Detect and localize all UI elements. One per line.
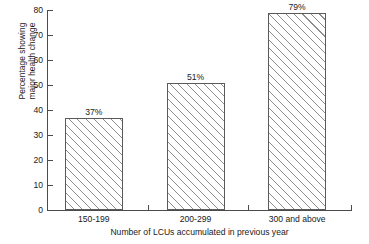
y-axis-tick-mark — [48, 35, 53, 36]
bar-value-label: 37% — [85, 107, 102, 117]
y-axis-tick-mark — [48, 160, 53, 161]
y-axis-tick-label: 70 — [33, 30, 43, 41]
y-axis-tick-label: 30 — [33, 130, 43, 141]
y-axis-tick-mark — [48, 135, 53, 136]
y-axis-tick-label: 60 — [33, 55, 43, 66]
y-axis-tick-mark — [48, 110, 53, 111]
y-axis-tick-mark — [48, 210, 53, 211]
y-axis-tick-label: 40 — [33, 105, 43, 116]
y-axis-tick-mark — [48, 60, 53, 61]
y-axis-tick-label: 80 — [33, 5, 43, 16]
y-axis-tick-label: 0 — [38, 205, 43, 216]
x-axis-tick-mark — [351, 205, 352, 210]
bar-chart: Percentage showing major health change 0… — [0, 0, 369, 244]
x-axis-tick-mark — [148, 205, 149, 210]
y-axis-tick-label: 20 — [33, 155, 43, 166]
y-axis-tick-mark — [48, 10, 53, 11]
bar[interactable]: 79% — [268, 13, 326, 211]
x-axis-tick-mark — [248, 205, 249, 210]
y-axis-tick: 20 — [47, 160, 53, 161]
y-axis-title: Percentage showing major health change — [14, 0, 40, 146]
x-axis-category-label: 200-299 — [180, 214, 212, 225]
y-axis-tick: 30 — [47, 135, 53, 136]
x-axis-tick-mark — [47, 205, 48, 210]
x-axis-category-label: 300 and above — [269, 214, 326, 225]
bar-value-label: 79% — [289, 2, 306, 12]
bar[interactable]: 51% — [167, 83, 225, 211]
y-axis-tick-label: 50 — [33, 80, 43, 91]
x-axis-title: Number of LCUs accumulated in previous y… — [47, 227, 352, 238]
y-axis-tick: 0 — [47, 210, 53, 211]
x-axis-category-label: 150-199 — [78, 214, 110, 225]
x-axis-line — [47, 210, 352, 211]
plot-area: 01020304050607080 37%51%79% 150-199200-2… — [47, 10, 352, 211]
y-axis-tick: 60 — [47, 60, 53, 61]
y-axis-tick: 80 — [47, 10, 53, 11]
y-axis-tick-label: 10 — [33, 180, 43, 191]
y-axis-tick-mark — [48, 185, 53, 186]
y-axis-tick: 70 — [47, 35, 53, 36]
y-axis-title-line-1: Percentage showing — [17, 23, 28, 100]
y-axis-tick: 50 — [47, 85, 53, 86]
y-axis-tick: 10 — [47, 185, 53, 186]
bar-value-label: 51% — [187, 72, 204, 82]
y-axis-tick-mark — [48, 85, 53, 86]
bar[interactable]: 37% — [65, 118, 123, 211]
y-axis-tick: 40 — [47, 110, 53, 111]
